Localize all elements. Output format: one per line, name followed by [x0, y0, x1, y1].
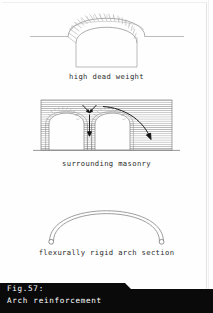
- figure-high-dead-weight: high dead weight: [0, 10, 213, 81]
- figure-caption-flexurally-rigid-arch: flexurally rigid arch section: [0, 248, 213, 257]
- figure-caption-bar: Fig.57: Arch reinforcement: [0, 277, 213, 313]
- masonry-hatch-fill: [41, 100, 172, 150]
- arch-rib-outer: [50, 211, 164, 242]
- figure-caption-surrounding-masonry: surrounding masonry: [0, 159, 213, 168]
- hinge-support-right: [159, 239, 164, 244]
- diagram-flexurally-rigid-arch: [0, 196, 213, 248]
- figure-surrounding-masonry: surrounding masonry: [0, 97, 213, 168]
- hinge-support-left: [49, 239, 54, 244]
- diagram-surrounding-masonry: [0, 97, 213, 159]
- arch-extrados: [68, 18, 145, 37]
- diagram-high-dead-weight: [0, 10, 213, 72]
- voussoir-joints: [68, 13, 137, 43]
- figure-title: Arch reinforcement: [7, 295, 102, 307]
- arch-intrados: [76, 27, 137, 43]
- figure-caption-text: Fig.57: Arch reinforcement: [7, 283, 102, 306]
- figure-flexurally-rigid-arch: flexurally rigid arch section: [0, 196, 213, 257]
- figure-caption-high-dead-weight: high dead weight: [0, 72, 213, 81]
- figure-number: Fig.57:: [7, 283, 102, 295]
